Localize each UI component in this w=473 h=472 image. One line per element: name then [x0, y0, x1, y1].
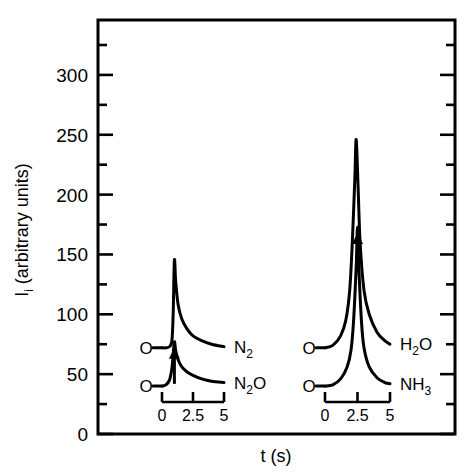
- inset-tick-label-left-group-5: 5: [220, 407, 229, 424]
- inset-tick-label-right-group-5: 5: [386, 407, 395, 424]
- inset-tick-label-left-group-2.5: 2.5: [182, 407, 204, 424]
- y-axis-title-rest: (arbitrary units): [12, 163, 32, 289]
- trace-start-marker-NH3: O: [302, 377, 315, 396]
- y-tick-label-0: 0: [77, 424, 88, 445]
- curve-traces: [153, 139, 390, 386]
- inset-tick-label-right-group-2.5: 2.5: [346, 407, 368, 424]
- y-tick-label-300: 300: [56, 65, 88, 86]
- series-label-main-NH3: NH: [400, 375, 425, 394]
- figure-container: 050100150200250300 OOOO N2N2OH2ONH3 02.5…: [0, 0, 473, 472]
- y-tick-label-100: 100: [56, 304, 88, 325]
- series-label-main-N2: N: [234, 338, 246, 357]
- trace-start-marker-N2O: O: [139, 377, 152, 396]
- series-label-sub-NH3: 3: [425, 384, 432, 398]
- y-tick-label-150: 150: [56, 244, 88, 265]
- curve-N2O: [162, 342, 224, 386]
- series-label-N2O: N2O: [234, 374, 266, 397]
- series-label-H2O: H2O: [400, 335, 432, 358]
- y-tick-label-200: 200: [56, 185, 88, 206]
- trace-start-marker-N2: O: [139, 339, 152, 358]
- curve-N2: [162, 259, 224, 347]
- y-tick-label-50: 50: [67, 364, 88, 385]
- inset-tick-label-left-group-0: 0: [158, 407, 167, 424]
- inset-tick-label-right-group-0: 0: [321, 407, 330, 424]
- inset-time-axes: 02.5502.55: [158, 392, 395, 424]
- trace-start-marker-H2O: O: [302, 339, 315, 358]
- series-label-sub-N2: 2: [246, 347, 253, 361]
- series-label-tail-N2O: O: [253, 374, 266, 393]
- series-label-tail-H2O: O: [419, 335, 432, 354]
- series-label-main-H2O: H: [400, 335, 412, 354]
- series-label-main-N2O: N: [234, 374, 246, 393]
- x-axis-title: t (s): [261, 446, 292, 466]
- y-tick-label-250: 250: [56, 125, 88, 146]
- plot-frame: [98, 20, 455, 434]
- ion-intensity-vs-time-chart: 050100150200250300 OOOO N2N2OH2ONH3 02.5…: [0, 0, 473, 472]
- injection-arrow-head-left-group: [169, 348, 180, 359]
- y-axis-ticks-left: [98, 45, 113, 434]
- series-label-N2: N2: [234, 338, 253, 361]
- y-axis-title: Ii (arbitrary units): [12, 163, 36, 297]
- y-axis-ticks-right: [440, 45, 455, 434]
- series-label-NH3: NH3: [400, 375, 432, 398]
- injection-arrows: [169, 233, 363, 384]
- y-axis-tick-labels: 050100150200250300: [56, 65, 88, 445]
